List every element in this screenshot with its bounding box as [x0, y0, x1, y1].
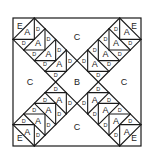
- label-side-c-bottom: C: [74, 122, 81, 132]
- label-sky-d: D: [47, 122, 51, 128]
- label-sky-d: D: [22, 40, 26, 46]
- label-sky-d: D: [68, 100, 72, 106]
- label-sky-d: D: [96, 72, 100, 78]
- label-sky-d: D: [114, 132, 118, 138]
- label-goose-a: A: [102, 105, 108, 115]
- label-sky-d: D: [43, 97, 47, 103]
- label-sky-d: D: [107, 61, 111, 67]
- label-sky-d: D: [96, 86, 100, 92]
- label-corner-e: E: [17, 21, 23, 31]
- label-sky-d: D: [82, 58, 86, 64]
- label-sky-d: D: [93, 111, 97, 117]
- label-sky-d: D: [47, 36, 51, 42]
- label-corner-e: E: [131, 21, 137, 31]
- label-sky-d: D: [107, 97, 111, 103]
- label-sky-d: D: [32, 107, 36, 113]
- label-goose-a: A: [113, 38, 119, 48]
- label-sky-d: D: [93, 47, 97, 53]
- label-sky-d: D: [32, 51, 36, 57]
- label-goose-a: A: [46, 49, 52, 59]
- label-sky-d: D: [43, 61, 47, 67]
- label-goose-a: A: [124, 27, 130, 37]
- label-sky-d: D: [103, 122, 107, 128]
- label-goose-a: A: [35, 38, 41, 48]
- label-goose-a: A: [24, 27, 30, 37]
- label-sky-d: D: [57, 47, 61, 53]
- label-sky-d: D: [128, 40, 132, 46]
- label-sky-d: D: [68, 58, 72, 64]
- label-goose-a: A: [35, 116, 41, 126]
- label-goose-a: A: [124, 127, 130, 137]
- label-sky-d: D: [114, 26, 118, 32]
- label-sky-d: D: [36, 132, 40, 138]
- label-sky-d: D: [54, 72, 58, 78]
- label-sky-d: D: [54, 86, 58, 92]
- quilt-block-diagram: ADDADDADDADDEADDADDADDADDEADDADDADDADDEA…: [0, 0, 150, 153]
- label-sky-d: D: [128, 118, 132, 124]
- label-goose-a: A: [92, 95, 98, 105]
- label-goose-a: A: [56, 95, 62, 105]
- label-sky-d: D: [82, 100, 86, 106]
- label-sky-d: D: [36, 26, 40, 32]
- label-sky-d: D: [118, 107, 122, 113]
- label-corner-e: E: [131, 133, 137, 143]
- label-center-b: B: [74, 77, 80, 87]
- label-sky-d: D: [103, 36, 107, 42]
- label-corner-e: E: [17, 133, 23, 143]
- label-goose-a: A: [56, 59, 62, 69]
- label-sky-d: D: [118, 51, 122, 57]
- label-goose-a: A: [92, 59, 98, 69]
- label-goose-a: A: [24, 127, 30, 137]
- label-side-c-left: C: [27, 77, 34, 87]
- label-sky-d: D: [22, 118, 26, 124]
- label-goose-a: A: [46, 105, 52, 115]
- label-sky-d: D: [57, 111, 61, 117]
- label-goose-a: A: [102, 49, 108, 59]
- label-side-c-right: C: [121, 77, 128, 87]
- label-goose-a: A: [113, 116, 119, 126]
- label-side-c-top: C: [74, 32, 81, 42]
